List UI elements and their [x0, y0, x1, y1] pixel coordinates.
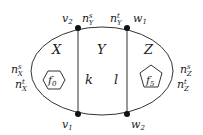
- annotation-n-s-x: nsX: [11, 63, 24, 78]
- face-label-f5: f5: [145, 74, 155, 88]
- region-label-z: Z: [143, 42, 154, 57]
- vertex-w2: [124, 111, 130, 117]
- vertex-v1: [75, 111, 81, 117]
- edge-label-k: k: [85, 72, 93, 87]
- region-label-x: X: [51, 42, 62, 57]
- vertex-label-w2: w2: [131, 118, 145, 132]
- edge-label-l: l: [114, 72, 118, 87]
- annotation-n-t-y: ntY: [110, 12, 123, 27]
- vertex-v2: [75, 25, 81, 31]
- vertex-label-v1: v1: [62, 118, 73, 132]
- diagram-canvas: X Y Z k l f0 f5 v2 w1 v1 w2 nsY ntY nsX …: [0, 0, 203, 135]
- region-label-y: Y: [97, 42, 107, 57]
- annotation-n-t-x: ntX: [15, 78, 28, 93]
- annotation-n-t-z: ntZ: [177, 78, 189, 93]
- annotation-n-s-y: nsY: [82, 12, 95, 27]
- vertex-label-v2: v2: [62, 12, 73, 26]
- vertex-w1: [124, 25, 130, 31]
- annotation-n-s-z: nsZ: [180, 63, 192, 78]
- face-label-f0: f0: [47, 74, 57, 88]
- vertex-label-w1: w1: [133, 12, 147, 26]
